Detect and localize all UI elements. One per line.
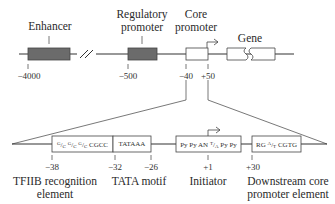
bre-label-line2: element: [6, 188, 104, 200]
tata-sequence: TATAAA: [113, 140, 151, 148]
regulatory-promoter-label-line1: Regulatory: [110, 8, 174, 20]
initiator-label: Initiator: [186, 175, 230, 187]
bre-sequence: G/C G/C G/C CGCC: [52, 140, 113, 151]
enhancer-block: [28, 48, 70, 60]
promoter-diagram: Enhancer Regulatory promoter Core promot…: [0, 0, 335, 204]
position-tata-start: −32: [103, 162, 127, 172]
gene-label: Gene: [230, 32, 270, 44]
position-core-start: −40: [176, 71, 196, 81]
dpe-label-line2: promoter element: [244, 188, 332, 200]
position-bre-start: −38: [40, 162, 64, 172]
tata-label: TATA motif: [108, 175, 170, 187]
position-dpe: +30: [242, 162, 264, 172]
dpe-label-line1: Downstream core: [244, 175, 332, 187]
core-promoter-label-line2: promoter: [170, 21, 222, 33]
position-enhancer: −4000: [14, 71, 44, 81]
initiator-sequence: Py Py AN T/A Py Py: [176, 140, 241, 151]
core-promoter-label-line1: Core: [176, 8, 216, 20]
core-promoter-block: [186, 48, 208, 60]
dpe-sequence: RG A/T CGTG: [252, 140, 301, 151]
enhancer-label: Enhancer: [22, 20, 78, 32]
bre-label-line1: TFIIB recognition: [6, 175, 104, 187]
gene-block-left: [227, 48, 248, 60]
position-regulatory: −500: [116, 71, 140, 81]
position-inr: +1: [198, 162, 218, 172]
gene-block-right: [249, 48, 275, 60]
regulatory-promoter-block: [128, 48, 157, 60]
regulatory-promoter-label-line2: promoter: [110, 21, 174, 33]
position-tata-end: −26: [139, 162, 163, 172]
position-core-end: +50: [198, 71, 218, 81]
